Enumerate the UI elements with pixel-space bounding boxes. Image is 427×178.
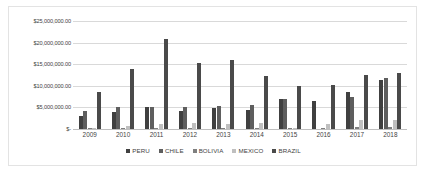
- bar-group: [73, 21, 106, 129]
- plot-area: [73, 21, 407, 129]
- x-axis-tick-label: 2016: [307, 131, 340, 143]
- bar: [364, 75, 368, 129]
- x-axis-tick-label: 2009: [73, 131, 106, 143]
- bar: [83, 111, 87, 129]
- legend-item[interactable]: PERU: [126, 147, 150, 154]
- y-axis-tick-label: $-: [13, 126, 71, 132]
- legend-item[interactable]: BOLIVIA: [193, 147, 224, 154]
- y-axis-tick-label: $5,000,000.00: [13, 104, 71, 110]
- bar: [264, 76, 268, 129]
- x-axis-tick-label: 2011: [140, 131, 173, 143]
- bar: [230, 60, 234, 129]
- bar: [379, 80, 383, 129]
- bar: [279, 99, 283, 129]
- bar: [164, 39, 168, 129]
- legend-label: PERU: [132, 147, 150, 154]
- bar: [384, 78, 388, 129]
- bar-group: [273, 21, 306, 129]
- x-axis-tick-label: 2014: [240, 131, 273, 143]
- legend-item[interactable]: BRAZIL: [272, 147, 300, 154]
- x-axis-tick-label: 2015: [273, 131, 306, 143]
- bar: [79, 116, 83, 129]
- bar: [130, 69, 134, 129]
- legend-label: BRAZIL: [278, 147, 300, 154]
- legend-swatch-icon: [232, 149, 236, 153]
- y-axis-tick-label: $20,000,000.00: [13, 40, 71, 46]
- bar: [283, 99, 287, 129]
- legend-label: MEXICO: [238, 147, 263, 154]
- bar: [150, 107, 154, 129]
- legend-item[interactable]: MEXICO: [232, 147, 263, 154]
- bar-group: [140, 21, 173, 129]
- bar: [297, 86, 301, 129]
- y-axis: $25,000,000.00$20,000,000.00$15,000,000.…: [13, 7, 71, 137]
- bar: [183, 107, 187, 129]
- bar: [212, 108, 216, 129]
- bar: [346, 92, 350, 129]
- legend-swatch-icon: [272, 149, 276, 153]
- legend-label: BOLIVIA: [199, 147, 224, 154]
- x-axis-tick-label: 2013: [207, 131, 240, 143]
- bar: [116, 107, 120, 129]
- y-axis-tick-label: $10,000,000.00: [13, 83, 71, 89]
- bar: [145, 107, 149, 129]
- bar: [312, 101, 316, 130]
- bar: [112, 112, 116, 129]
- bar: [246, 110, 250, 129]
- bar-group: [173, 21, 206, 129]
- x-axis-tick-label: 2010: [106, 131, 139, 143]
- bar: [250, 105, 254, 129]
- legend-label: CHILE: [165, 147, 184, 154]
- bar: [359, 120, 363, 129]
- bar-group: [340, 21, 373, 129]
- legend-swatch-icon: [159, 149, 163, 153]
- bar: [350, 97, 354, 129]
- legend-swatch-icon: [193, 149, 197, 153]
- bar: [331, 85, 335, 129]
- bar-group: [207, 21, 240, 129]
- x-axis-tick-label: 2012: [173, 131, 206, 143]
- y-axis-tick-label: $15,000,000.00: [13, 61, 71, 67]
- bar: [397, 73, 401, 129]
- bar: [97, 92, 101, 129]
- bar: [197, 63, 201, 129]
- bar-group: [106, 21, 139, 129]
- chart-legend: PERUCHILEBOLIVIAMEXICOBRAZIL: [9, 147, 418, 154]
- x-axis-tick-label: 2017: [340, 131, 373, 143]
- legend-item[interactable]: CHILE: [159, 147, 184, 154]
- bar-group: [240, 21, 273, 129]
- legend-swatch-icon: [126, 149, 130, 153]
- bar-group: [307, 21, 340, 129]
- bar: [179, 111, 183, 129]
- bar: [393, 120, 397, 129]
- bar-group: [374, 21, 407, 129]
- chart-container: $25,000,000.00$20,000,000.00$15,000,000.…: [8, 6, 417, 166]
- y-axis-tick-label: $25,000,000.00: [13, 18, 71, 24]
- x-axis-tick-label: 2018: [374, 131, 407, 143]
- x-axis: 2009201020112012201320142015201620172018: [73, 131, 407, 143]
- x-axis-line: [73, 129, 407, 130]
- bar: [217, 106, 221, 129]
